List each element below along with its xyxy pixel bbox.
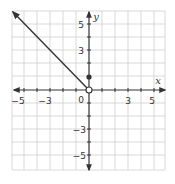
y-tick-3: 3 xyxy=(78,46,84,56)
x-tick-neg5: −5 xyxy=(11,96,24,106)
y-axis-label: y xyxy=(92,11,99,22)
y-tick-neg3: −3 xyxy=(73,125,86,135)
origin-label: 0 xyxy=(78,95,84,105)
closed-point xyxy=(86,74,91,79)
y-tick-5: 5 xyxy=(78,20,84,30)
x-axis-label: x xyxy=(155,75,161,86)
y-tick-neg5: −5 xyxy=(73,151,86,161)
open-point xyxy=(86,87,92,93)
x-tick-3: 3 xyxy=(125,96,131,106)
x-tick-5: 5 xyxy=(149,96,155,106)
x-tick-neg3: −3 xyxy=(38,96,51,106)
coordinate-plane: −5 −3 0 3 5 5 3 −3 −5 x y xyxy=(0,0,175,184)
